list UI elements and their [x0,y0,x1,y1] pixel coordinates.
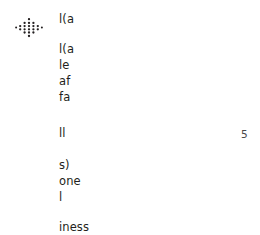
body-fragment-6: one [59,175,81,188]
page-canvas: l(a l(a le af fa ll s) one l iness 5 [0,0,260,235]
body-fragment-3: af [59,75,70,88]
body-fragment-1: l(a [59,43,74,56]
middle-fragment: ll [59,127,66,140]
diamond-dot-lattice-icon [14,17,44,38]
body-fragment-7: l [59,191,62,204]
body-fragment-4: fa [59,91,70,104]
title-fragment: l(a [59,13,74,26]
side-number: 5 [241,128,248,140]
body-fragment-2: le [59,59,69,72]
tail-fragment: iness [59,221,89,234]
body-fragment-5: s) [59,159,70,172]
